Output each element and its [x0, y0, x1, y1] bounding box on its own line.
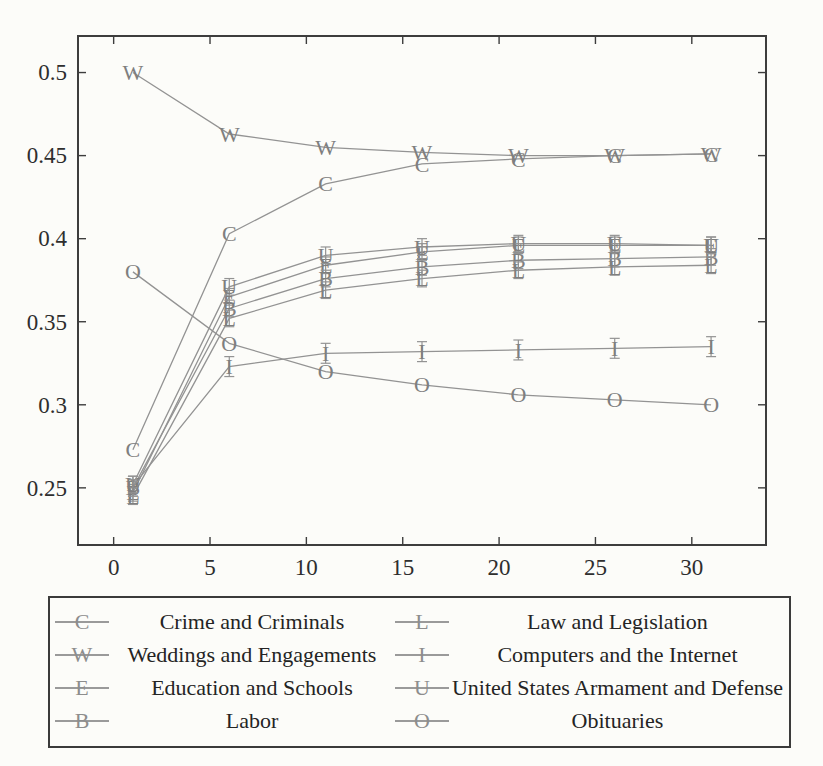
- marker-O-3: O: [414, 372, 430, 397]
- marker-O-0: O: [125, 259, 141, 284]
- marker-O-4: O: [510, 382, 526, 407]
- marker-O-2: O: [318, 359, 334, 384]
- legend-label: United States Armament and Defense: [450, 675, 785, 701]
- legend-label: Computers and the Internet: [450, 642, 785, 668]
- marker-I-3: I: [418, 339, 425, 364]
- legend-marker-U: U: [394, 675, 450, 701]
- legend-marker-letter: I: [418, 644, 425, 666]
- x-tick-label: 15: [391, 555, 414, 580]
- legend-marker-letter: B: [75, 710, 90, 732]
- marker-W-6: W: [701, 142, 722, 167]
- legend-marker-B: B: [54, 708, 110, 734]
- legend-marker-letter: C: [75, 611, 90, 633]
- legend-marker-I: I: [394, 642, 450, 668]
- series-line-I: [133, 347, 711, 487]
- legend-item-crime-and-criminals: C Crime and Criminals: [54, 609, 394, 635]
- legend-label: Crime and Criminals: [110, 609, 394, 635]
- legend-item-labor: B Labor: [54, 708, 394, 734]
- legend-marker-C: C: [54, 609, 110, 635]
- legend-item-united-states-armament-and-defense: U United States Armament and Defense: [394, 675, 785, 701]
- marker-O-6: O: [703, 392, 719, 417]
- legend-item-obituaries: O Obituaries: [394, 708, 785, 734]
- y-tick-label: 0.3: [38, 393, 67, 418]
- marker-U-0: U: [125, 472, 141, 497]
- legend-label: Law and Legislation: [450, 609, 785, 635]
- legend-label: Education and Schools: [110, 675, 394, 701]
- chart-legend: C Crime and Criminals L Law and Legislat…: [48, 596, 791, 748]
- marker-I-1: I: [226, 354, 233, 379]
- marker-W-1: W: [219, 122, 240, 147]
- x-tick-label: 10: [295, 555, 318, 580]
- x-tick-label: 30: [680, 555, 703, 580]
- marker-U-4: U: [510, 231, 526, 256]
- x-tick-label: 20: [488, 555, 511, 580]
- marker-C-0: C: [126, 437, 141, 462]
- legend-item-education-and-schools: E Education and Schools: [54, 675, 394, 701]
- marker-W-2: W: [315, 135, 336, 160]
- marker-C-2: C: [318, 171, 333, 196]
- series-line-C: [133, 154, 711, 450]
- legend-item-law-and-legislation: L Law and Legislation: [394, 609, 785, 635]
- marker-I-6: I: [707, 334, 714, 359]
- legend-label: Weddings and Engagements: [110, 642, 394, 668]
- line-chart: 0510152025300.250.30.350.40.450.5CCCCCCC…: [0, 0, 823, 592]
- marker-L-2: L: [319, 278, 332, 303]
- marker-O-5: O: [607, 387, 623, 412]
- legend-marker-letter: O: [414, 710, 430, 732]
- line-chart-svg: 0510152025300.250.30.350.40.450.5CCCCCCC…: [0, 0, 823, 592]
- marker-W-3: W: [412, 140, 433, 165]
- marker-U-1: U: [221, 274, 237, 299]
- y-tick-label: 0.4: [38, 226, 67, 251]
- marker-U-5: U: [607, 231, 623, 256]
- legend-marker-letter: L: [415, 611, 428, 633]
- legend-marker-letter: E: [75, 677, 88, 699]
- legend-marker-letter: U: [414, 677, 430, 699]
- x-tick-label: 25: [584, 555, 607, 580]
- marker-C-1: C: [222, 221, 237, 246]
- marker-L-5: L: [608, 255, 621, 280]
- x-tick-label: 0: [108, 555, 120, 580]
- legend-marker-letter: W: [72, 644, 93, 666]
- marker-I-4: I: [515, 338, 522, 363]
- legend-item-computers-and-the-internet: I Computers and the Internet: [394, 642, 785, 668]
- y-tick-label: 0.5: [38, 60, 67, 85]
- marker-L-4: L: [512, 258, 525, 283]
- legend-label: Obituaries: [450, 708, 785, 734]
- marker-W-5: W: [604, 143, 625, 168]
- marker-U-2: U: [318, 243, 334, 268]
- marker-U-3: U: [414, 235, 430, 260]
- legend-label: Labor: [110, 708, 394, 734]
- legend-marker-L: L: [394, 609, 450, 635]
- y-tick-label: 0.45: [27, 143, 67, 168]
- marker-L-3: L: [415, 266, 428, 291]
- legend-marker-O: O: [394, 708, 450, 734]
- y-tick-label: 0.25: [27, 476, 67, 501]
- legend-marker-E: E: [54, 675, 110, 701]
- marker-L-1: L: [223, 306, 236, 331]
- legend-marker-W: W: [54, 642, 110, 668]
- marker-O-1: O: [221, 331, 237, 356]
- legend-item-weddings-and-engagements: W Weddings and Engagements: [54, 642, 394, 668]
- marker-W-0: W: [123, 60, 144, 85]
- y-tick-label: 0.35: [27, 310, 67, 335]
- marker-I-5: I: [611, 336, 618, 361]
- x-tick-label: 5: [204, 555, 216, 580]
- marker-W-4: W: [508, 143, 529, 168]
- marker-U-6: U: [703, 233, 719, 258]
